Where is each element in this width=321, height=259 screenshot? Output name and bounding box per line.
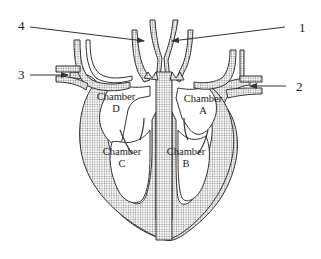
chamber-a-label: Chamber A: [178, 93, 228, 116]
chamber-d-line1: Chamber: [91, 91, 141, 103]
chamber-d-line2: D: [91, 103, 141, 115]
label-4: 4: [18, 19, 25, 32]
chamber-b-label: Chamber B: [161, 146, 211, 169]
label-3: 3: [18, 68, 25, 81]
chamber-d-label: Chamber D: [91, 91, 141, 114]
chamber-c-line1: Chamber: [97, 146, 147, 158]
chamber-a-line2: A: [178, 105, 228, 117]
chamber-a-line1: Chamber: [178, 93, 228, 105]
chamber-c-line2: C: [97, 158, 147, 170]
label-1: 1: [299, 21, 306, 34]
heart-diagram: [0, 0, 321, 259]
chamber-c-label: Chamber C: [97, 146, 147, 169]
leader-4: [30, 27, 144, 41]
chamber-b-line1: Chamber: [161, 146, 211, 158]
label-2: 2: [296, 80, 303, 93]
chamber-b-line2: B: [161, 158, 211, 170]
